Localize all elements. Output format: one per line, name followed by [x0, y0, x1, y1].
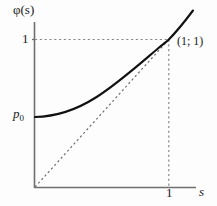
- y-axis-label: φ(s): [13, 3, 34, 16]
- x-axis-label: s: [199, 185, 204, 198]
- plot-canvas: [0, 0, 217, 206]
- y-tick-label-one: 1: [22, 32, 29, 45]
- x-tick-label-one: 1: [166, 186, 173, 199]
- diagonal-identity-dashed-line: [35, 40, 169, 188]
- generating-function-plot: φ(s) 1 p0 1 s (1; 1): [0, 0, 217, 206]
- p0-subscript: 0: [20, 113, 25, 123]
- fixed-point-label: (1; 1): [177, 35, 203, 47]
- p0-label: p0: [13, 107, 24, 123]
